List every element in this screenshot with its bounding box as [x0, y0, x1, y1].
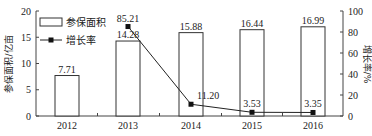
- x-category-label: 2012: [57, 120, 77, 131]
- growth-rate-line: [128, 27, 313, 113]
- growth-rate-label: 3.53: [243, 98, 261, 109]
- right-tick-label: 80: [348, 27, 358, 38]
- left-tick-label: 0: [26, 111, 31, 122]
- left-axis-title: 参保面积/亿亩: [3, 35, 14, 92]
- growth-rate-label: 85.21: [117, 13, 140, 24]
- legend-line-label: 增长率: [66, 34, 96, 46]
- bar-value-label: 14.28: [117, 29, 140, 40]
- bar-value-label: 16.99: [302, 15, 325, 26]
- legend-bar-label: 参保面积: [66, 16, 106, 28]
- x-category-label: 2014: [181, 120, 201, 131]
- legend-bar-swatch: [40, 18, 62, 26]
- bar-value-label: 7.71: [58, 64, 76, 75]
- x-category-label: 2013: [118, 120, 138, 131]
- chart: 05101520020406080100参保面积/亿亩增长率/%7.7114.2…: [0, 0, 372, 136]
- bar: [116, 41, 140, 116]
- left-tick-label: 5: [26, 84, 31, 95]
- bar-value-label: 16.44: [241, 18, 264, 29]
- growth-rate-label: 11.20: [197, 90, 219, 101]
- left-tick-label: 10: [21, 58, 31, 69]
- left-tick-label: 20: [21, 6, 31, 17]
- right-tick-label: 20: [348, 90, 358, 101]
- right-tick-label: 40: [348, 69, 358, 80]
- right-tick-label: 0: [348, 111, 353, 122]
- growth-rate-label: 3.35: [304, 98, 322, 109]
- growth-rate-marker: [250, 110, 255, 115]
- x-category-label: 2016: [303, 120, 323, 131]
- bar: [55, 76, 79, 116]
- growth-rate-marker: [189, 102, 194, 107]
- growth-rate-marker: [126, 24, 131, 29]
- growth-rate-marker: [311, 110, 316, 115]
- right-tick-label: 60: [348, 48, 358, 59]
- x-category-label: 2015: [242, 120, 262, 131]
- legend-line-marker: [49, 38, 54, 43]
- bar-value-label: 15.88: [180, 21, 203, 32]
- right-axis-title: 增长率/%: [362, 45, 372, 84]
- right-tick-label: 100: [348, 6, 363, 17]
- left-tick-label: 15: [21, 32, 31, 43]
